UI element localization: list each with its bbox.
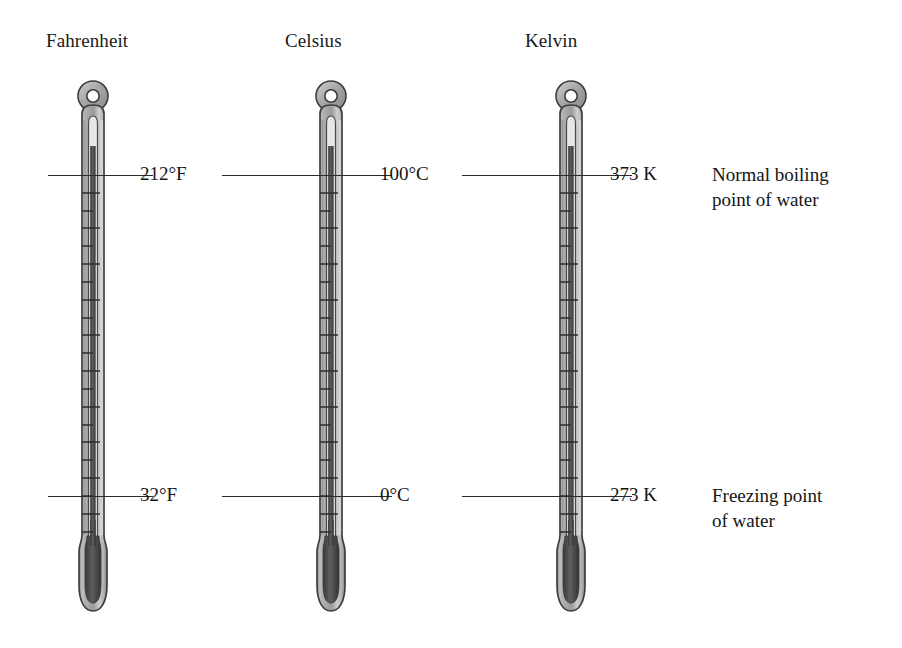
note-boiling-point: Normal boiling point of water: [712, 162, 829, 212]
leader-line-freezing-celsius: [222, 496, 392, 497]
thermometer-comparison-figure: Fahrenheit Celsius Kelvin: [0, 0, 902, 648]
reading-fahrenheit-boiling: 212°F: [140, 163, 187, 185]
reading-kelvin-freezing: 273 K: [610, 484, 657, 506]
thermometer-fahrenheit: [60, 80, 126, 625]
reading-fahrenheit-freezing: 32°F: [140, 484, 177, 506]
leader-line-boiling-celsius: [222, 175, 392, 176]
note-freezing-line-1: Freezing point: [712, 483, 822, 508]
thermometer-kelvin: [538, 80, 604, 625]
thermometer-celsius: [298, 80, 364, 625]
reading-celsius-freezing: 0°C: [380, 484, 410, 506]
reading-celsius-boiling: 100°C: [380, 163, 429, 185]
leader-line-boiling-fahrenheit: [48, 175, 153, 176]
column-title-fahrenheit: Fahrenheit: [46, 30, 128, 52]
note-boiling-line-1: Normal boiling: [712, 162, 829, 187]
column-title-kelvin: Kelvin: [525, 30, 577, 52]
reading-kelvin-boiling: 373 K: [610, 163, 657, 185]
note-freezing-point: Freezing point of water: [712, 483, 822, 533]
column-title-celsius: Celsius: [285, 30, 342, 52]
leader-line-freezing-fahrenheit: [48, 496, 153, 497]
leader-line-freezing-kelvin: [462, 496, 632, 497]
note-boiling-line-2: point of water: [712, 187, 829, 212]
note-freezing-line-2: of water: [712, 508, 822, 533]
leader-line-boiling-kelvin: [462, 175, 632, 176]
